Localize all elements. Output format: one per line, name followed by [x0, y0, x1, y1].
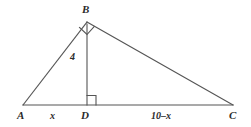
vertex-label-b: B	[82, 4, 89, 15]
segment-ab	[23, 22, 87, 105]
segment-ad-label: x	[50, 111, 55, 121]
vertex-label-d: D	[81, 110, 89, 121]
vertex-label-c: C	[229, 110, 236, 121]
right-angle-marker-d	[87, 96, 96, 106]
segment-bc	[87, 22, 233, 105]
geometry-diagram: B A D C 4 x 10–x	[0, 0, 251, 127]
altitude-length-label: 4	[70, 52, 75, 62]
triangle-figure	[0, 0, 251, 127]
vertex-label-a: A	[17, 110, 24, 121]
segment-dc-label: 10–x	[151, 111, 171, 121]
